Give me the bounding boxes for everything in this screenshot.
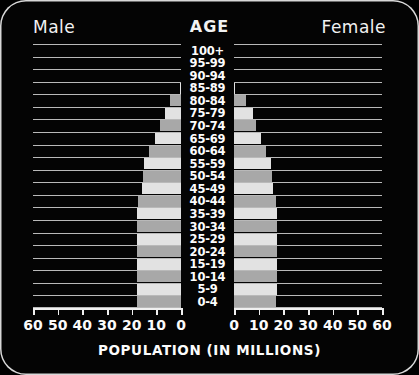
male-x-axis: [33, 308, 181, 315]
gridline: [234, 107, 382, 108]
female-bar: [234, 234, 277, 245]
female-tick-label: 60: [372, 317, 391, 333]
male-bar: [138, 196, 181, 207]
female-bar: [234, 296, 276, 307]
male-bar: [155, 133, 181, 144]
age-band-label: 55-59: [181, 158, 234, 170]
female-axis-tick: [234, 308, 236, 315]
female-bar: [234, 83, 235, 94]
male-tick-label: 0: [176, 317, 186, 333]
age-band-label: 40-44: [181, 195, 234, 207]
age-band-label: 90-94: [181, 70, 234, 82]
age-band-label: 5-9: [181, 283, 234, 295]
female-bar: [234, 221, 277, 232]
female-tick-label: 50: [348, 317, 367, 333]
female-bar: [234, 171, 272, 182]
male-axis-tick: [132, 308, 134, 315]
age-band-label: 20-24: [181, 246, 234, 258]
age-band-label: 80-84: [181, 95, 234, 107]
male-bar: [137, 271, 181, 282]
male-bar: [165, 108, 181, 119]
male-bar: [170, 95, 181, 106]
female-tick-label: 0: [229, 317, 239, 333]
age-band-label: 100+: [181, 45, 234, 57]
gridline: [33, 119, 181, 120]
female-axis-tick: [308, 308, 310, 315]
male-bar: [137, 284, 181, 295]
male-axis-tick: [156, 308, 158, 315]
gridline: [33, 44, 181, 45]
female-x-axis: [234, 308, 382, 315]
female-bar: [234, 183, 273, 194]
female-axis-tick: [357, 308, 359, 315]
gridline: [33, 82, 181, 83]
male-axis-tick: [33, 308, 35, 315]
male-axis-tick: [107, 308, 109, 315]
female-bar: [234, 108, 253, 119]
male-bar: [137, 259, 181, 270]
male-tick-label: 20: [122, 317, 141, 333]
female-bar: [234, 120, 256, 131]
female-tick-label: 10: [249, 317, 268, 333]
male-bars-panel: [33, 44, 181, 308]
female-bar: [234, 246, 277, 257]
male-tick-label: 10: [147, 317, 166, 333]
female-bars-panel: [234, 44, 382, 308]
age-band-label: 60-64: [181, 145, 234, 157]
male-bar: [144, 158, 181, 169]
gridline: [234, 94, 382, 95]
female-bar: [234, 259, 277, 270]
gridline: [33, 69, 181, 70]
male-tick-label: 40: [73, 317, 92, 333]
gridline: [234, 44, 382, 45]
female-axis-tick: [333, 308, 335, 315]
female-bar: [234, 208, 277, 219]
male-tick-label: 60: [23, 317, 42, 333]
gridline: [33, 107, 181, 108]
female-bar: [234, 95, 246, 106]
age-band-label: 15-19: [181, 258, 234, 270]
age-band-label: 10-14: [181, 271, 234, 283]
female-tick-label: 40: [323, 317, 342, 333]
x-axis-title: POPULATION (IN MILLIONS): [0, 342, 419, 358]
male-bar: [137, 296, 181, 307]
gridline: [234, 119, 382, 120]
male-axis-tick: [58, 308, 60, 315]
age-band-label: 95-99: [181, 57, 234, 69]
female-tick-label: 20: [274, 317, 293, 333]
age-band-label: 75-79: [181, 107, 234, 119]
gridline: [33, 94, 181, 95]
age-band-label: 65-69: [181, 133, 234, 145]
age-band-label: 45-49: [181, 183, 234, 195]
female-bar: [234, 196, 276, 207]
male-bar: [137, 221, 181, 232]
age-band-label: 35-39: [181, 208, 234, 220]
age-label-column: 100+95-9990-9485-8980-8475-7970-7465-696…: [181, 44, 234, 308]
age-band-label: 0-4: [181, 296, 234, 308]
age-band-label: 30-34: [181, 221, 234, 233]
male-tick-label: 30: [97, 317, 116, 333]
female-bar: [234, 284, 277, 295]
gridline: [234, 57, 382, 58]
gridline: [234, 82, 382, 83]
age-band-label: 70-74: [181, 120, 234, 132]
female-bar: [234, 158, 271, 169]
female-axis-tick: [283, 308, 285, 315]
male-bar: [142, 183, 181, 194]
age-band-label: 85-89: [181, 82, 234, 94]
female-tick-label: 30: [298, 317, 317, 333]
male-axis-tick: [181, 308, 183, 315]
female-bar: [234, 133, 261, 144]
chart-frame: Male AGE Female 100+95-9990-9485-8980-84…: [0, 0, 419, 375]
male-bar: [137, 246, 181, 257]
female-column-header: Female: [322, 16, 386, 38]
male-axis-tick: [82, 308, 84, 315]
female-bar: [234, 146, 266, 157]
age-band-label: 25-29: [181, 233, 234, 245]
female-bar: [234, 271, 277, 282]
male-bar: [160, 120, 181, 131]
gridline: [33, 57, 181, 58]
male-bar: [149, 146, 181, 157]
female-axis-tick: [259, 308, 261, 315]
male-bar: [143, 171, 181, 182]
